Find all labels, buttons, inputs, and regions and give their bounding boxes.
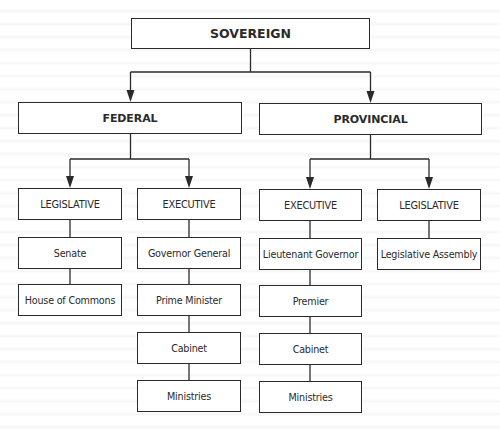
legislative-assembly-box: Legislative Assembly [377, 238, 481, 270]
provincial-legislative-box: LEGISLATIVE [377, 189, 481, 221]
lieutenant-governor-label: Lieutenant Governor [263, 249, 358, 260]
provincial-legislative-label: LEGISLATIVE [399, 200, 459, 211]
legislative-assembly-label: Legislative Assembly [381, 249, 478, 260]
federal-legislative-box: LEGISLATIVE [18, 188, 122, 220]
federal-executive-box: EXECUTIVE [137, 188, 241, 220]
premier-label: Premier [293, 296, 329, 307]
provincial-ministries-box: Ministries [259, 381, 362, 413]
lieutenant-governor-box: Lieutenant Governor [259, 238, 362, 270]
federal-ministries-box: Ministries [137, 380, 241, 412]
provincial-executive-box: EXECUTIVE [259, 189, 362, 221]
sovereign-label: SOVEREIGN [210, 26, 291, 41]
provincial-ministries-label: Ministries [289, 392, 333, 403]
house-of-commons-label: House of Commons [25, 295, 115, 306]
federal-executive-label: EXECUTIVE [162, 199, 215, 210]
federal-label: FEDERAL [103, 112, 158, 125]
house-of-commons-box: House of Commons [18, 284, 122, 316]
federal-box: FEDERAL [18, 102, 242, 134]
prime-minister-box: Prime Minister [137, 284, 241, 316]
governor-general-box: Governor General [137, 237, 241, 269]
provincial-executive-label: EXECUTIVE [284, 200, 337, 211]
governor-general-label: Governor General [148, 248, 230, 259]
provincial-label: PROVINCIAL [333, 113, 407, 126]
senate-box: Senate [18, 237, 122, 269]
provincial-cabinet-label: Cabinet [293, 344, 329, 355]
provincial-cabinet-box: Cabinet [259, 333, 362, 365]
premier-box: Premier [259, 285, 362, 317]
federal-cabinet-box: Cabinet [137, 332, 241, 364]
prime-minister-label: Prime Minister [156, 295, 222, 306]
provincial-box: PROVINCIAL [259, 103, 482, 135]
federal-legislative-label: LEGISLATIVE [40, 199, 100, 210]
senate-label: Senate [54, 248, 86, 259]
federal-cabinet-label: Cabinet [171, 343, 207, 354]
sovereign-box: SOVEREIGN [131, 18, 370, 49]
federal-ministries-label: Ministries [167, 391, 211, 402]
